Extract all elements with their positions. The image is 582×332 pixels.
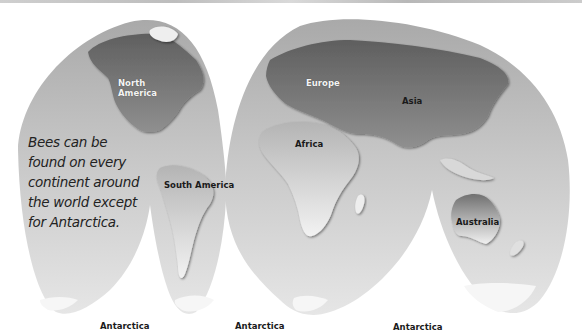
annotation-line-5: for Antarctica.	[28, 212, 168, 232]
label-south-america: South America	[164, 180, 234, 190]
label-antarctica-1: Antarctica	[100, 321, 149, 331]
annotation-line-1: Bees can be	[28, 132, 168, 152]
label-australia: Australia	[456, 217, 499, 227]
label-africa: Africa	[295, 139, 323, 149]
label-north-america-line1: North	[118, 78, 157, 88]
label-antarctica-2: Antarctica	[235, 321, 284, 331]
label-north-america: North America	[118, 78, 157, 98]
annotation-line-4: the world except	[28, 192, 168, 212]
annotation-line-2: found on every	[28, 152, 168, 172]
label-antarctica-3: Antarctica	[393, 322, 442, 332]
label-europe: Europe	[306, 78, 340, 88]
label-asia: Asia	[402, 96, 422, 106]
label-north-america-line2: America	[118, 88, 157, 98]
bee-annotation: Bees can be found on every continent aro…	[28, 132, 168, 232]
annotation-line-3: continent around	[28, 172, 168, 192]
